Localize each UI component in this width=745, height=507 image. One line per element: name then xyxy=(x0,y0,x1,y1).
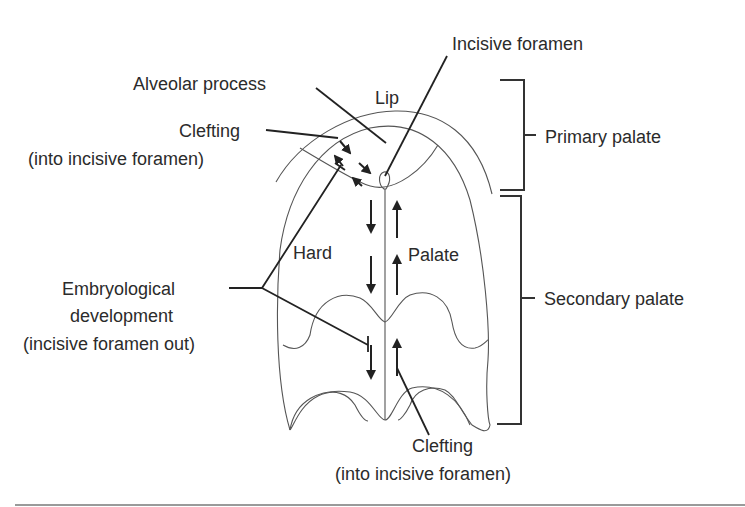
palate-diagram: Incisive foramen Alveolar process Lip Cl… xyxy=(0,0,745,507)
primary-palate-bracket xyxy=(500,80,536,190)
palate-outline-left-bottom xyxy=(290,392,368,430)
label-alveolar-process: Alveolar process xyxy=(133,74,266,94)
label-clefting-top-1: Clefting xyxy=(179,121,240,141)
secondary-palate-bracket xyxy=(497,196,535,424)
label-embryological-2: development xyxy=(70,306,173,326)
label-embryological-3: (incisive foramen out) xyxy=(23,334,195,354)
leader-incisive-foramen xyxy=(385,56,447,176)
label-primary-palate: Primary palate xyxy=(545,127,661,147)
label-incisive-foramen: Incisive foramen xyxy=(452,34,583,54)
label-clefting-top-2: (into incisive foramen) xyxy=(28,149,204,169)
label-palate: Palate xyxy=(408,245,459,265)
label-clefting-bottom-2: (into incisive foramen) xyxy=(335,464,511,484)
label-lip: Lip xyxy=(375,88,399,108)
lower-scallop xyxy=(290,387,470,430)
arrow-diag-down-1 xyxy=(340,141,350,153)
label-hard: Hard xyxy=(293,243,332,263)
leader-clefting-bottom xyxy=(397,368,429,435)
arrow-diag-down-2 xyxy=(359,163,370,173)
label-embryological-1: Embryological xyxy=(62,279,175,299)
label-clefting-bottom-1: Clefting xyxy=(412,436,473,456)
alveolar-inner-curve xyxy=(300,145,438,187)
label-secondary-palate: Secondary palate xyxy=(544,289,684,309)
